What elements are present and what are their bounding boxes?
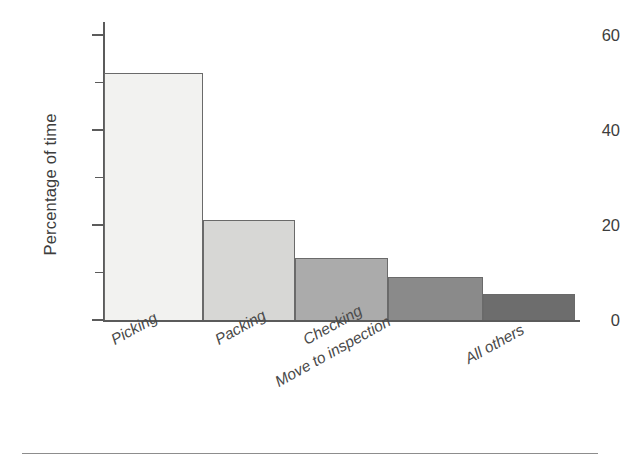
- bar-chart-figure: Percentage of time 0204060 PickingPackin…: [0, 0, 620, 475]
- bars-layer: [0, 0, 620, 475]
- bar: [203, 220, 295, 320]
- bottom-divider: [22, 453, 598, 454]
- bar: [483, 294, 575, 320]
- bar: [388, 277, 483, 320]
- bar: [104, 73, 203, 320]
